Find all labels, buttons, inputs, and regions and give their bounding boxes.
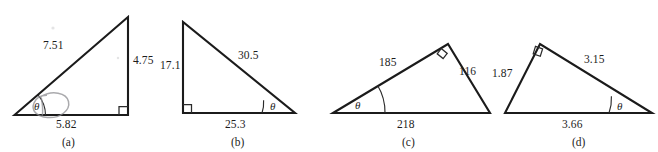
triangle-b-label-hypotenuse: 30.5 bbox=[238, 50, 259, 62]
triangles-figure-svg bbox=[0, 0, 658, 152]
triangle-c-theta-label: θ bbox=[355, 100, 361, 111]
triangle-a-right-angle-icon bbox=[119, 107, 128, 116]
triangle-b-theta-arc-icon bbox=[262, 100, 264, 113]
triangle-a-outline bbox=[15, 17, 129, 115]
scan-speck bbox=[51, 26, 54, 29]
figure-container: 7.51 4.75 5.82 θ (a) 17.1 30.5 25.3 θ (b… bbox=[0, 0, 658, 152]
triangle-c-theta-arc-icon bbox=[378, 85, 386, 113]
triangle-d-outline bbox=[505, 44, 652, 113]
triangle-b-label-base: 25.3 bbox=[225, 119, 246, 131]
triangle-a-caption: (a) bbox=[62, 137, 75, 149]
triangle-d-caption: (d) bbox=[572, 137, 585, 149]
triangle-b-group bbox=[183, 22, 295, 113]
triangle-a-ink-artifact-2 bbox=[41, 98, 42, 116]
scan-speck bbox=[117, 57, 119, 59]
triangle-d-right-angle-icon bbox=[533, 46, 542, 56]
triangle-d-label-base: 3.66 bbox=[562, 119, 583, 131]
triangle-c-label-right-side: 116 bbox=[459, 66, 476, 78]
triangle-a-group bbox=[15, 17, 129, 118]
triangle-b-caption: (b) bbox=[231, 137, 244, 149]
triangle-a-label-hypotenuse: 7.51 bbox=[43, 40, 64, 52]
triangle-a-label-vertical: 4.75 bbox=[133, 55, 154, 67]
triangle-c-label-base: 218 bbox=[397, 119, 415, 131]
triangle-d-theta-arc-icon bbox=[609, 96, 611, 113]
triangle-a-theta-label: θ bbox=[34, 101, 40, 112]
triangle-b-theta-label: θ bbox=[270, 101, 276, 112]
triangle-c-label-left-side: 185 bbox=[379, 57, 397, 69]
triangle-d-label-left-side: 1.87 bbox=[492, 68, 513, 80]
triangle-b-label-vertical: 17.1 bbox=[160, 60, 181, 72]
triangle-d-group bbox=[505, 44, 652, 113]
triangle-b-right-angle-icon bbox=[183, 105, 192, 114]
triangle-c-caption: (c) bbox=[402, 137, 415, 149]
triangle-d-theta-label: θ bbox=[617, 101, 623, 112]
triangle-a-label-base: 5.82 bbox=[56, 119, 77, 131]
triangle-d-label-right-side: 3.15 bbox=[584, 54, 605, 66]
triangle-b-outline bbox=[183, 22, 295, 113]
